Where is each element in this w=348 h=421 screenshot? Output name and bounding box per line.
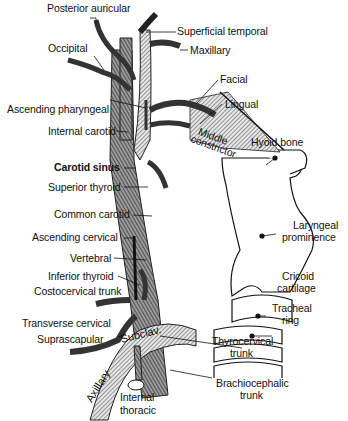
label-lingual: Lingual (225, 98, 258, 110)
label-vertebral: Vertebral (70, 252, 111, 264)
label-inferior-thyroid: Inferior thyroid (48, 270, 114, 282)
label-thyrocervical-trunk-2: trunk (230, 347, 253, 359)
label-brachiocephalic-trunk-2: trunk (240, 389, 263, 401)
label-tracheal-ring-2: ring (282, 314, 299, 326)
label-carotid-sinus: Carotid sinus (54, 161, 120, 173)
artery-drawing (0, 0, 348, 421)
label-internal-thoracic-1: Internal (120, 391, 154, 403)
label-suprascapular: Suprascapular (37, 333, 103, 345)
label-superficial-temporal: Superficial temporal (177, 25, 268, 37)
label-common-carotid: Common carotid (54, 208, 130, 220)
anatomy-diagram: Subclav. Axillary Posterior auricular Su… (0, 0, 348, 421)
label-thyrocervical-trunk-1: Thyrocervical (212, 335, 273, 347)
label-ascending-cervical: Ascending cervical (32, 231, 118, 243)
label-laryngeal-prominence-1: Laryngeal (293, 219, 338, 231)
label-superior-thyroid: Superior thyroid (48, 181, 121, 193)
label-transverse-cervical: Transverse cervical (22, 317, 111, 329)
label-brachiocephalic-trunk-1: Brachiocephalic (216, 377, 289, 389)
label-internal-thoracic-2: thoracic (120, 404, 156, 416)
label-tracheal-ring-1: Tracheal (272, 302, 312, 314)
label-maxillary: Maxillary (190, 44, 231, 56)
label-ascending-pharyngeal: Ascending pharyngeal (7, 103, 109, 115)
label-cricoid-cartilage-2: cartilage (277, 282, 316, 294)
label-internal-carotid: Internal carotid (48, 125, 116, 137)
label-laryngeal-prominence-2: prominence (282, 231, 336, 243)
label-costocervical-trunk: Costocervical trunk (34, 285, 121, 297)
label-facial: Facial (220, 73, 247, 85)
label-posterior-auricular: Posterior auricular (47, 2, 130, 14)
label-cricoid-cartilage-1: Cricoid (282, 270, 314, 282)
label-hyoid-bone: Hyoid bone (251, 136, 303, 148)
label-occipital: Occipital (48, 42, 87, 54)
